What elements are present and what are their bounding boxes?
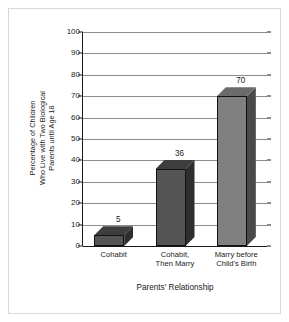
x-axis-title: Parents' Relationship <box>83 283 267 292</box>
bar-value-label: 5 <box>98 215 138 224</box>
y-axis-tick-mark-right <box>267 139 271 140</box>
bar-front-face <box>94 235 124 246</box>
y-axis-tick-mark-right <box>267 246 271 247</box>
bar <box>156 160 195 246</box>
y-axis-tick-mark-right <box>267 203 271 204</box>
x-axis-category-label-line: Child's Birth <box>206 259 267 268</box>
y-axis-tick-label: 50 <box>54 135 80 143</box>
x-axis-category-label: Cohabit <box>83 250 144 259</box>
y-axis-tick-mark <box>78 160 83 161</box>
y-axis-tick-labels: 0102030405060708090100 <box>54 30 80 248</box>
y-axis-tick-mark <box>78 181 83 182</box>
bar-side-face <box>186 160 195 246</box>
y-axis-tick-label: 0 <box>54 242 80 250</box>
bar-front-face <box>217 96 247 246</box>
x-axis-category-label: Marry beforeChild's Birth <box>206 250 267 269</box>
bar-front-face <box>156 169 186 246</box>
y-axis-tick-mark-right <box>267 224 271 225</box>
y-axis-tick-label: 100 <box>54 28 80 36</box>
y-axis-tick-mark <box>78 224 83 225</box>
bar-side-face <box>247 87 256 246</box>
y-axis-title-line-1: Percentage of Children <box>28 91 38 185</box>
bar <box>94 226 133 246</box>
y-axis-tick-mark <box>78 96 83 97</box>
y-axis-tick-mark <box>78 139 83 140</box>
x-axis-category-label-line: Cohabit <box>83 250 144 259</box>
y-axis-tick-mark-right <box>267 74 271 75</box>
bar-value-label: 36 <box>160 149 200 158</box>
x-axis-category-labels: CohabitCohabit,Then MarryMarry beforeChi… <box>83 250 267 278</box>
y-axis-tick-mark <box>78 53 83 54</box>
y-axis-tick-mark <box>78 74 83 75</box>
x-axis-category-label-line: Then Marry <box>144 259 205 268</box>
y-axis-tick-mark <box>78 117 83 118</box>
x-axis-category-label-line: Marry before <box>206 250 267 259</box>
x-axis-baseline <box>83 246 267 247</box>
y-axis-tick-mark-right <box>267 53 271 54</box>
y-axis-tick-mark <box>78 203 83 204</box>
y-axis-tick-mark-right <box>267 32 271 33</box>
y-axis-tick-label: 80 <box>54 71 80 79</box>
y-axis-tick-mark <box>78 246 83 247</box>
y-axis-tick-label: 10 <box>54 221 80 229</box>
y-axis-tick-mark-right <box>267 160 271 161</box>
y-axis-tick-label: 30 <box>54 178 80 186</box>
y-axis-tick-label: 90 <box>54 49 80 57</box>
plot-area: 53670 <box>83 32 267 246</box>
bar <box>217 87 256 246</box>
bar-series: 53670 <box>83 32 267 246</box>
y-axis-tick-mark-right <box>267 181 271 182</box>
y-axis-tick-label: 60 <box>54 114 80 122</box>
y-axis-tick-label: 20 <box>54 199 80 207</box>
y-axis-tick-mark-right <box>267 117 271 118</box>
bar-value-label: 70 <box>221 76 261 85</box>
x-axis-category-label: Cohabit,Then Marry <box>144 250 205 269</box>
y-axis-tick-mark <box>78 32 83 33</box>
y-axis-title-line-2: Who Live with Two Biological <box>37 91 47 185</box>
x-axis-category-label-line: Cohabit, <box>144 250 205 259</box>
y-axis-tick-label: 70 <box>54 92 80 100</box>
y-axis-tick-label: 40 <box>54 156 80 164</box>
chart-figure: Percentage of Children Who Live with Two… <box>0 0 289 322</box>
y-axis-tick-mark-right <box>267 96 271 97</box>
